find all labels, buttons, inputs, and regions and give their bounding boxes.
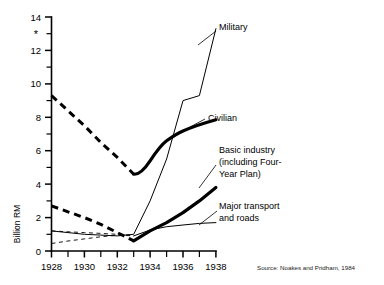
series-label-major-transport-line2: and roads	[219, 213, 260, 223]
y-tick-label-4: 4	[36, 179, 41, 190]
chart-figure: 14 12 10 8 6 4 2 0 * Billion RM 1928	[0, 0, 384, 285]
x-tick-label-1938: 1938	[205, 261, 226, 272]
series-major-transport-dashed-segment	[52, 235, 134, 243]
series-label-civilian: Civilian	[208, 113, 237, 123]
y-tick-label-6: 6	[36, 145, 41, 156]
y-axis	[45, 17, 52, 251]
series-label-major-transport: Major transport and roads	[219, 201, 280, 223]
y-tick-label-2: 2	[36, 212, 41, 223]
series-label-basic-industry: Basic industry (including Four- Year Pla…	[219, 145, 282, 179]
y-tick-label-10: 10	[30, 78, 41, 89]
leader-basic-industry	[199, 165, 216, 188]
series-civilian-dashed-segment	[52, 96, 134, 175]
series-basic-industry	[52, 187, 216, 241]
x-tick-label-1928: 1928	[41, 261, 62, 272]
x-axis-tick-labels: 1928 1930 1932 1934 1936 1938	[41, 261, 227, 272]
y-axis-title: Billion RM	[12, 205, 22, 243]
series-label-basic-industry-line1: Basic industry	[219, 145, 276, 155]
axis-asterisk-marker: *	[34, 28, 39, 40]
source-note: Source: Noakes and Pridham, 1984	[257, 264, 356, 271]
series-label-major-transport-line1: Major transport	[219, 201, 280, 211]
series-label-military: Military	[219, 22, 248, 32]
series-civilian	[52, 96, 216, 175]
series-basic-industry-solid-segment	[134, 187, 216, 241]
y-tick-label-8: 8	[36, 112, 41, 123]
y-tick-label-0: 0	[36, 246, 41, 257]
x-tick-label-1934: 1934	[140, 261, 161, 272]
series-label-basic-industry-line2: (including Four-	[219, 157, 282, 167]
series-label-basic-industry-line3: Year Plan)	[219, 169, 261, 179]
x-tick-label-1936: 1936	[172, 261, 193, 272]
x-tick-label-1930: 1930	[74, 261, 95, 272]
y-axis-tick-labels: 14 12 10 8 6 4 2 0	[30, 12, 41, 257]
chart-svg: 14 12 10 8 6 4 2 0 * Billion RM 1928	[0, 0, 384, 285]
y-tick-label-14: 14	[30, 12, 41, 23]
x-axis	[52, 251, 217, 258]
y-tick-label-12: 12	[30, 45, 41, 56]
x-tick-label-1932: 1932	[107, 261, 128, 272]
